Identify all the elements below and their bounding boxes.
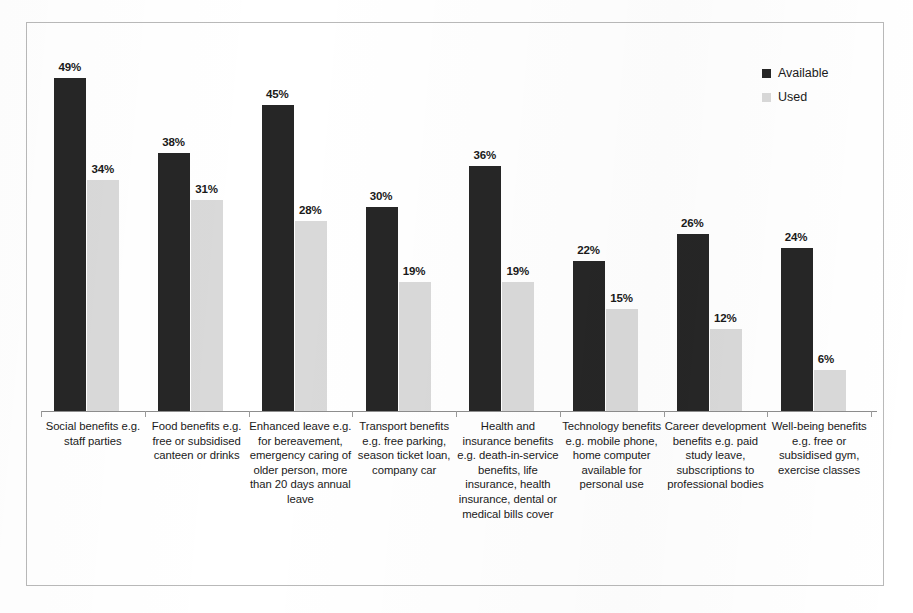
bar-available — [677, 234, 709, 411]
category-label: Enhanced leave e.g. for bereavement, eme… — [249, 419, 353, 507]
bar-used — [814, 370, 846, 411]
x-axis-tick — [664, 411, 665, 417]
bar-value-label: 34% — [91, 163, 114, 175]
x-axis-tick — [352, 411, 353, 417]
bar-used — [710, 329, 742, 411]
bar-value-label: 49% — [58, 61, 81, 73]
bar-used — [399, 282, 431, 411]
bar-value-label: 22% — [577, 244, 600, 256]
bar-available — [262, 105, 294, 411]
bar-value-label: 12% — [714, 312, 737, 324]
legend-item[interactable]: Used — [762, 87, 882, 107]
bar-used — [87, 180, 119, 411]
bar-value-label: 28% — [299, 204, 322, 216]
bar-value-label: 19% — [403, 265, 426, 277]
x-axis-line — [41, 411, 877, 412]
chart-legend: AvailableUsed — [762, 63, 882, 111]
bar-used — [191, 200, 223, 411]
bar-available — [573, 261, 605, 411]
category-label: Social benefits e.g. staff parties — [41, 419, 145, 448]
category-label: Health and insurance benefits e.g. death… — [456, 419, 560, 521]
bar-value-label: 36% — [473, 149, 496, 161]
legend-swatch-icon — [762, 93, 771, 102]
legend-label: Available — [778, 66, 829, 80]
x-axis-tick — [767, 411, 768, 417]
bar-value-label: 15% — [610, 292, 633, 304]
bar-value-label: 45% — [266, 88, 289, 100]
plot-area: 49%34%38%31%45%28%30%19%36%19%22%15%26%1… — [41, 37, 871, 411]
category-label: Career development benefits e.g. paid st… — [664, 419, 768, 492]
chart-screenshot: 49%34%38%31%45%28%30%19%36%19%22%15%26%1… — [0, 0, 913, 613]
bar-available — [158, 153, 190, 411]
x-axis-tick — [249, 411, 250, 417]
bar-used — [502, 282, 534, 411]
bar-value-label: 38% — [162, 136, 185, 148]
bar-used — [295, 221, 327, 411]
bar-value-label: 24% — [785, 231, 808, 243]
legend-swatch-icon — [762, 69, 771, 78]
category-label: Technology benefits e.g. mobile phone, h… — [560, 419, 664, 492]
bar-value-label: 26% — [681, 217, 704, 229]
bar-value-label: 31% — [195, 183, 218, 195]
bar-value-label: 30% — [370, 190, 393, 202]
category-label: Food benefits e.g. free or subsidised ca… — [145, 419, 249, 463]
bar-value-label: 19% — [506, 265, 529, 277]
x-axis-category-labels: Social benefits e.g. staff partiesFood b… — [41, 419, 877, 579]
bar-available — [469, 166, 501, 411]
x-axis-tick — [145, 411, 146, 417]
legend-label: Used — [778, 90, 807, 104]
category-label: Well-being benefits e.g. free or subsidi… — [767, 419, 871, 477]
bar-available — [366, 207, 398, 411]
bar-value-label: 6% — [818, 353, 834, 365]
legend-item[interactable]: Available — [762, 63, 882, 83]
bar-used — [606, 309, 638, 411]
x-axis-tick — [871, 411, 872, 417]
category-label: Transport benefits e.g. free parking, se… — [352, 419, 456, 477]
bar-available — [54, 78, 86, 411]
bar-available — [781, 248, 813, 411]
x-axis-tick — [560, 411, 561, 417]
chart-frame: 49%34%38%31%45%28%30%19%36%19%22%15%26%1… — [26, 22, 884, 586]
x-axis-tick — [41, 411, 42, 417]
x-axis-tick — [456, 411, 457, 417]
